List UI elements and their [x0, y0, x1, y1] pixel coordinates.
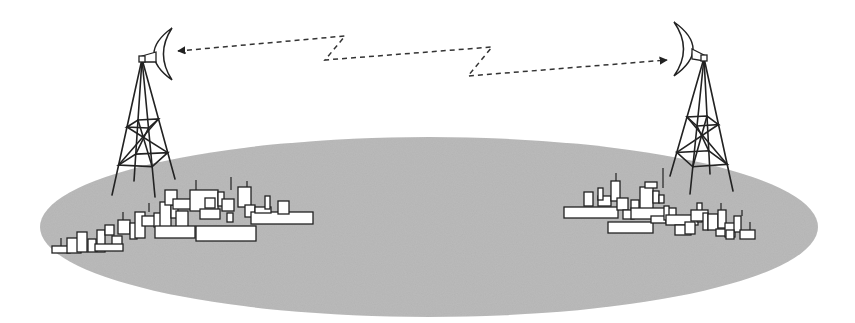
building — [653, 191, 659, 203]
building — [584, 192, 593, 206]
building — [196, 226, 256, 241]
building — [708, 214, 718, 230]
building — [105, 225, 114, 235]
building — [118, 220, 130, 234]
building — [726, 230, 734, 239]
building — [659, 195, 664, 203]
building — [95, 244, 123, 251]
building — [77, 232, 87, 252]
building — [227, 213, 233, 222]
building — [703, 213, 708, 230]
diagram-canvas — [0, 0, 855, 323]
building — [640, 187, 653, 209]
tower-cross-brace — [119, 119, 159, 165]
tower-head — [139, 56, 145, 62]
building — [205, 198, 215, 208]
building — [238, 187, 251, 207]
building — [564, 207, 618, 218]
building — [222, 199, 234, 211]
building — [685, 222, 695, 234]
building — [598, 188, 603, 200]
tower-brace-upper — [687, 116, 719, 126]
dashed-link-arrow — [178, 36, 667, 76]
building — [265, 196, 270, 209]
building — [645, 182, 657, 188]
tower-head — [701, 55, 707, 61]
building — [608, 222, 653, 233]
radio-link — [178, 36, 667, 76]
microwave-link-diagram — [0, 0, 855, 323]
dish-antenna-icon — [154, 28, 172, 80]
building — [740, 230, 755, 239]
building — [155, 226, 195, 238]
building — [278, 201, 289, 214]
building — [617, 198, 628, 210]
building — [160, 202, 171, 227]
dish-antenna-icon — [674, 22, 693, 76]
building — [200, 209, 220, 219]
